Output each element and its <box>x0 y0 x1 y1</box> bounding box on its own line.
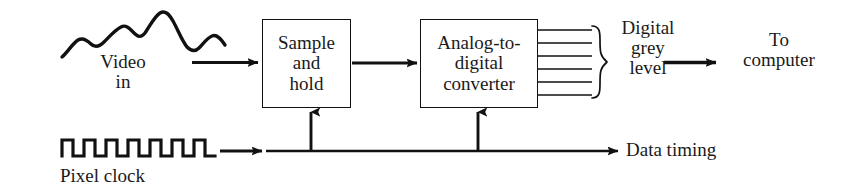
output-brace-icon <box>592 26 607 98</box>
block-sample-and-hold[interactable]: Sampleandhold <box>262 19 351 108</box>
digital-grey-level-label: Digitalgreylevel <box>608 18 688 78</box>
data-timing-label: Data timing <box>626 140 826 160</box>
to-computer-label: Tocomputer <box>724 30 834 70</box>
block-analog-to-digital-converter[interactable]: Analog-to-digitalconverter <box>420 19 538 108</box>
pixel-clock-waveform-icon <box>62 140 215 156</box>
pixel-clock-label: Pixel clock <box>60 166 220 186</box>
block-analog-to-digital-converter-label: Analog-to-digitalconverter <box>437 33 520 93</box>
digital-output-lines <box>538 30 592 95</box>
video-in-label: Videoin <box>78 52 168 92</box>
block-diagram: Sampleandhold Analog-to-digitalconverter… <box>0 0 846 195</box>
block-sample-and-hold-label: Sampleandhold <box>278 33 335 93</box>
